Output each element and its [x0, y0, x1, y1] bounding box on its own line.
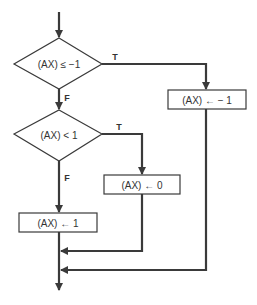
d2-true-label: T: [116, 122, 122, 132]
process-p2-label: (AX) ← 0: [121, 180, 162, 191]
decision-d2-label: (AX) < 1: [41, 130, 78, 141]
process-p1-label: (AX) ← − 1: [182, 95, 232, 106]
flowchart-canvas: [0, 0, 257, 305]
d1-true-label: T: [112, 52, 118, 62]
edge-d2-true: [102, 134, 142, 174]
process-p3-label: (AX) ← 1: [37, 218, 78, 229]
edge-d1-true: [102, 64, 206, 89]
d2-false-label: F: [64, 173, 70, 183]
d1-false-label: F: [64, 93, 70, 103]
decision-d1-label: (AX) ≤ −1: [38, 59, 80, 70]
